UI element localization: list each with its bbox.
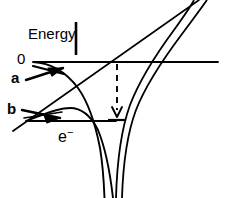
energy-axis-label: Energy xyxy=(28,26,76,41)
electron-symbol: e xyxy=(58,128,67,145)
curve-right-upper-path xyxy=(116,0,194,198)
zero-level-label: 0 xyxy=(17,51,25,66)
electron-label: e− xyxy=(58,127,73,145)
straight-diagonal-line xyxy=(13,0,199,131)
electron-charge-superscript: − xyxy=(67,126,73,138)
energy-diagram-figure: Energy 0 a b e− xyxy=(0,0,225,198)
curve-a-label: a xyxy=(11,70,19,85)
curve-right-lower-path xyxy=(122,0,207,198)
curve-b-label: b xyxy=(7,101,16,116)
